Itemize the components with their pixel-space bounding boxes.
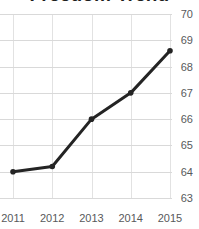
y-tick-label: 65 <box>181 139 193 151</box>
data-point-marker <box>89 116 95 122</box>
y-tick-label: 69 <box>181 34 193 46</box>
data-point-marker <box>10 169 16 175</box>
data-point-marker <box>49 164 55 170</box>
y-tick-label: 63 <box>181 192 193 204</box>
chart-card: Freedom Trend 63646566676869702011201220… <box>0 0 199 229</box>
trend-line <box>13 51 170 172</box>
x-tick-label: 2014 <box>119 212 143 224</box>
y-tick-label: 70 <box>181 8 193 20</box>
x-tick-label: 2015 <box>158 212 182 224</box>
data-point-marker <box>167 48 173 54</box>
line-chart: 636465666768697020112012201320142015 <box>0 0 199 229</box>
y-tick-label: 67 <box>181 87 193 99</box>
y-tick-label: 68 <box>181 61 193 73</box>
y-tick-label: 64 <box>181 166 193 178</box>
x-tick-label: 2011 <box>1 212 25 224</box>
data-point-marker <box>128 90 134 96</box>
chart-title: Freedom Trend <box>0 0 199 4</box>
x-tick-label: 2012 <box>40 212 64 224</box>
y-tick-label: 66 <box>181 113 193 125</box>
x-tick-label: 2013 <box>79 212 103 224</box>
